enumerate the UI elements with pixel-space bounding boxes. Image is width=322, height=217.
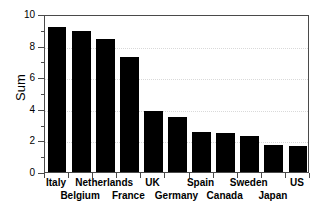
- y-tick-minor: [41, 157, 44, 158]
- y-tick-minor: [41, 62, 44, 63]
- bar-series: [45, 16, 308, 172]
- y-tick-label: 2: [11, 136, 35, 146]
- y-tick-major: [38, 110, 44, 111]
- y-tick-label: 8: [11, 42, 35, 52]
- y-tick-label: 10: [11, 10, 35, 20]
- bar: [96, 39, 115, 172]
- y-tick-major: [38, 47, 44, 48]
- y-tick-label: 6: [11, 73, 35, 83]
- x-axis-label: US: [257, 178, 322, 188]
- y-tick-major: [38, 141, 44, 142]
- bar: [120, 57, 139, 172]
- y-tick-major: [38, 78, 44, 79]
- bar: [240, 136, 259, 172]
- x-axis-label: Japan: [233, 191, 313, 201]
- y-tick-major: [38, 15, 44, 16]
- bar: [144, 111, 163, 172]
- bar: [168, 117, 187, 172]
- bar: [216, 133, 235, 172]
- bar: [48, 27, 67, 172]
- plot-area: [44, 15, 309, 173]
- y-tick-label: 0: [11, 168, 35, 178]
- bar: [192, 132, 211, 172]
- y-tick-minor: [41, 94, 44, 95]
- bar: [264, 145, 283, 172]
- bar-chart: Sum 0246810 ItalyBelgiumNetherlandsFranc…: [0, 0, 322, 217]
- y-tick-minor: [41, 126, 44, 127]
- y-axis-title: Sum: [13, 48, 28, 128]
- y-tick-minor: [41, 31, 44, 32]
- bar: [72, 31, 91, 172]
- bar: [289, 146, 308, 172]
- y-tick-label: 4: [11, 105, 35, 115]
